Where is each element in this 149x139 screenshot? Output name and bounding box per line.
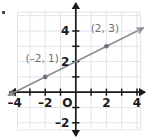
y-tick-label: 4 (61, 24, 69, 38)
x-tick-label: 4 (133, 96, 141, 110)
coordinate-plane-svg: –4–224–224O (–2, 1)(2, 3) (0, 0, 149, 139)
x-tick-label: –4 (7, 96, 21, 110)
point-annotations: (–2, 1)(2, 3) (25, 22, 119, 64)
coordinate-graph-figure: –4–224–224O (–2, 1)(2, 3) (0, 0, 149, 139)
y-axis-arrow-up (72, 2, 80, 9)
data-point (104, 44, 109, 49)
x-tick-label: 2 (102, 96, 110, 110)
y-tick-label: –2 (55, 116, 69, 130)
point-label: (2, 3) (91, 22, 119, 34)
y-tick-label: 2 (61, 55, 69, 69)
point-label: (–2, 1) (25, 52, 58, 64)
x-tick-label: –2 (38, 96, 52, 110)
grid-lines (18, 12, 141, 130)
origin-label: O (62, 96, 72, 110)
data-point (43, 75, 48, 80)
y-axis-arrow-down (72, 130, 80, 137)
